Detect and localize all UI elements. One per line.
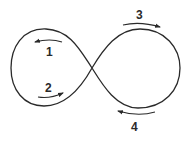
arrow-3-icon [123,23,160,27]
figure-eight-diagram: 1 2 3 4 [0,0,187,141]
arrow-1-icon [35,40,62,42]
label-3: 3 [136,9,143,21]
arrow-4-icon [118,111,155,114]
label-2: 2 [45,82,52,94]
label-4: 4 [131,121,138,133]
figure-eight-curve [0,0,187,141]
label-1: 1 [46,46,53,58]
right-loop [92,29,180,108]
